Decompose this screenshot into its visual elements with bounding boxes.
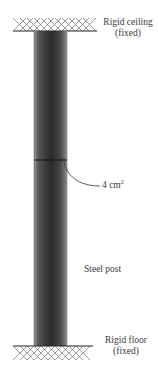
ceiling-hatch [13,18,96,31]
area-label: 4 cm2 [102,180,124,191]
steel-post-diagram [0,0,158,374]
area-exponent: 2 [121,179,124,185]
floor-label: Rigid floor (fixed) [98,335,154,357]
steel-post [34,31,67,346]
ceiling-label-line2: (fixed) [100,28,156,39]
floor-label-line1: Rigid floor [98,335,154,346]
ceiling-label-line1: Rigid ceiling [100,17,156,28]
ceiling-label: Rigid ceiling (fixed) [100,17,156,39]
floor-hatch [13,346,90,360]
post-label: Steel post [84,264,121,275]
area-value: 4 cm [102,180,121,190]
area-leader [64,161,100,186]
floor-label-line2: (fixed) [98,346,154,357]
